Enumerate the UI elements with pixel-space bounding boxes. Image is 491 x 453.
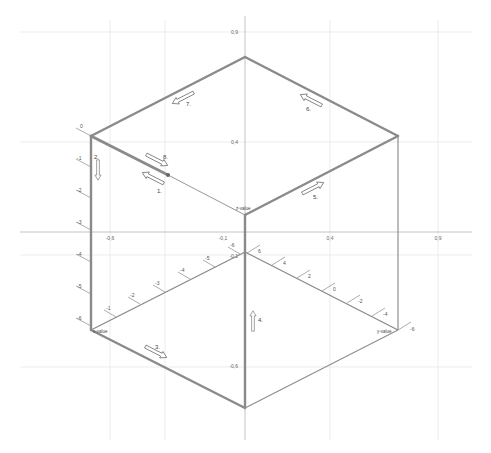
y-value-label: y-value bbox=[377, 329, 392, 334]
svg-text:-6: -6 bbox=[77, 315, 82, 321]
svg-text:7.: 7. bbox=[186, 101, 191, 107]
y-axis-tick-labels: 6 4 2 0 -2 -4 -6 bbox=[258, 248, 415, 332]
cube-edges bbox=[91, 57, 398, 408]
y-tick-label: -0,6 bbox=[229, 363, 238, 369]
svg-text:8.: 8. bbox=[163, 154, 168, 160]
x-axis-ticks bbox=[104, 247, 240, 317]
y-tick-label: 0,9 bbox=[231, 29, 238, 35]
svg-text:2.: 2. bbox=[94, 154, 99, 160]
svg-text:-1: -1 bbox=[106, 305, 111, 311]
z-value-label: z-value bbox=[236, 206, 251, 211]
svg-text:3.: 3. bbox=[155, 344, 160, 350]
arrow-5: 5. bbox=[301, 179, 326, 200]
svg-text:5.: 5. bbox=[313, 194, 318, 200]
z-axis-tick-labels: 0 -1 -2 -3 -4 -5 -6 bbox=[77, 123, 83, 321]
x-tick-label: 0,4 bbox=[327, 235, 334, 241]
y-axis-line bbox=[245, 252, 398, 330]
edge-bottom-right bbox=[245, 330, 398, 408]
x-axis-tick-labels: -1 -2 -3 -4 -5 -6 bbox=[106, 242, 235, 311]
x-axis-line bbox=[91, 252, 245, 330]
svg-text:-4: -4 bbox=[77, 251, 82, 257]
z-axis-line-back bbox=[168, 175, 245, 215]
svg-text:-3: -3 bbox=[77, 219, 82, 225]
svg-text:-2: -2 bbox=[77, 187, 82, 193]
x-value-label: x-value bbox=[93, 329, 108, 334]
svg-text:4.: 4. bbox=[258, 317, 263, 323]
svg-text:-4: -4 bbox=[383, 311, 388, 317]
svg-text:6: 6 bbox=[258, 248, 261, 254]
edge-top-left bbox=[91, 57, 245, 136]
svg-text:-6: -6 bbox=[410, 326, 415, 332]
svg-text:-1: -1 bbox=[77, 155, 82, 161]
path-endpoint bbox=[166, 173, 170, 177]
y-axis-ticks bbox=[247, 245, 411, 330]
isometric-cube-diagram: -0,6 -0,1 0,4 0,9 0,9 0,4 -0,1 -0,6 0 -1… bbox=[0, 0, 491, 453]
y-tick-labels: 0,9 0,4 -0,1 -0,6 bbox=[229, 29, 238, 369]
svg-text:0: 0 bbox=[80, 123, 83, 129]
svg-text:-2: -2 bbox=[130, 292, 135, 298]
svg-text:4: 4 bbox=[283, 260, 286, 266]
svg-text:6.: 6. bbox=[306, 106, 311, 112]
svg-text:2: 2 bbox=[308, 273, 311, 279]
arrow-2: 2. bbox=[94, 154, 101, 180]
edge-bottom-left bbox=[91, 330, 245, 408]
x-tick-label: -0,6 bbox=[106, 235, 115, 241]
edge-top-right bbox=[245, 57, 398, 136]
x-tick-label: 0,9 bbox=[435, 235, 442, 241]
svg-text:0: 0 bbox=[333, 286, 336, 292]
svg-text:1.: 1. bbox=[157, 188, 162, 194]
svg-text:-3: -3 bbox=[155, 280, 160, 286]
y-tick-label: 0,4 bbox=[231, 139, 238, 145]
svg-text:-2: -2 bbox=[358, 298, 363, 304]
x-tick-label: -0,1 bbox=[219, 235, 228, 241]
arrow-down-icon bbox=[95, 160, 101, 180]
x-tick-labels: -0,6 -0,1 0,4 0,9 bbox=[106, 235, 442, 241]
svg-text:-5: -5 bbox=[205, 255, 210, 261]
svg-text:-6: -6 bbox=[230, 242, 235, 248]
svg-text:-4: -4 bbox=[180, 267, 185, 273]
edge-front-right-top bbox=[245, 136, 398, 215]
arrow-4: 4. bbox=[250, 311, 263, 331]
arrow-up-icon bbox=[250, 311, 256, 331]
svg-text:-5: -5 bbox=[77, 283, 82, 289]
